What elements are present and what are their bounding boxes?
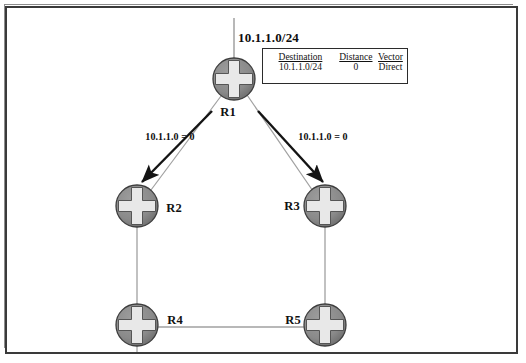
network-prefix-label: 10.1.1.0/24 bbox=[238, 30, 299, 46]
routing-table-header-row: Destination Distance Vector bbox=[263, 49, 407, 62]
router-label-r1: R1 bbox=[220, 105, 236, 120]
router-label-r5: R5 bbox=[285, 313, 301, 328]
cell-vector: Direct bbox=[374, 62, 407, 75]
router-label-r4: R4 bbox=[167, 313, 183, 328]
router-icon-r1[interactable] bbox=[213, 58, 255, 100]
router-icon-r5[interactable] bbox=[304, 304, 346, 346]
arrow-update-r1-to-r3 bbox=[258, 111, 323, 182]
update-label-right: 10.1.1.0 = 0 bbox=[298, 131, 347, 142]
link-r1-r3 bbox=[245, 92, 315, 194]
column-header-distance: Distance bbox=[338, 49, 374, 62]
cell-distance: 0 bbox=[338, 62, 374, 75]
cell-destination: 10.1.1.0/24 bbox=[263, 62, 338, 75]
update-label-left: 10.1.1.0 = 0 bbox=[145, 131, 194, 142]
column-header-vector: Vector bbox=[374, 49, 407, 62]
table-row: 10.1.1.0/24 0 Direct bbox=[263, 62, 407, 75]
arrow-update-r1-to-r2 bbox=[142, 111, 212, 182]
figure-container: 10.1.1.0/24 Destination Distance Vector … bbox=[0, 0, 526, 363]
router-label-r3: R3 bbox=[284, 199, 300, 214]
router-icon-r4[interactable] bbox=[116, 304, 158, 346]
routing-table: Destination Distance Vector 10.1.1.0/24 … bbox=[262, 48, 408, 84]
router-label-r2: R2 bbox=[166, 201, 182, 216]
router-icon-r2[interactable] bbox=[116, 185, 158, 227]
router-icon-r3[interactable] bbox=[304, 185, 346, 227]
column-header-destination: Destination bbox=[263, 49, 338, 62]
link-r1-r2 bbox=[148, 92, 224, 194]
